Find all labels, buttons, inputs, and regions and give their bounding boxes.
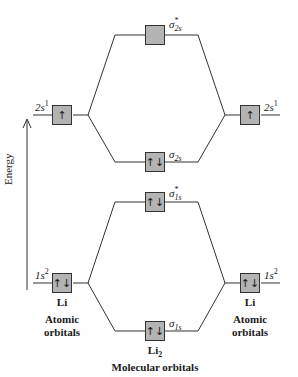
molecular-orbitals-caption: Molecular orbitals xyxy=(105,361,205,374)
left-1s-orbital-box: ↑↓ xyxy=(52,273,72,293)
left-2s-label: 2s1 xyxy=(35,99,49,113)
right-1s-orbital-box: ↑↓ xyxy=(240,273,260,293)
left-1s-label: 1s2 xyxy=(35,267,49,281)
sigma-2s-label: σ2s xyxy=(169,148,182,163)
molecule-name: Li2 xyxy=(140,344,170,361)
sigma-star-1s-label: σ*1s xyxy=(169,185,182,202)
right-atom-name: Li xyxy=(240,296,260,309)
sigma-star-2s-label: σ*2s xyxy=(169,16,182,33)
sigma-star-2s-orbital-box xyxy=(145,25,165,45)
right-atomic-orbitals-caption: Atomicorbitals xyxy=(225,313,275,339)
energy-axis-label: Energy xyxy=(2,153,14,185)
left-2s-orbital-box: ↑ xyxy=(52,105,72,125)
right-2s-orbital-box: ↑ xyxy=(240,105,260,125)
sigma-2s-orbital-box: ↑↓ xyxy=(145,152,165,172)
right-1s-label: 1s2 xyxy=(264,267,278,281)
sigma-1s-orbital-box: ↑↓ xyxy=(145,321,165,341)
left-atomic-orbitals-caption: Atomicorbitals xyxy=(37,313,87,339)
left-atom-name: Li xyxy=(52,296,72,309)
sigma-star-1s-orbital-box: ↑↓ xyxy=(145,192,165,212)
right-2s-label: 2s1 xyxy=(264,99,278,113)
sigma-1s-label: σ1s xyxy=(169,317,182,332)
